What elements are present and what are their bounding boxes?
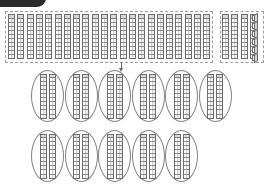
tens-rod <box>185 14 192 59</box>
tens-rod <box>216 74 223 119</box>
tens-rod <box>148 14 155 59</box>
tens-rod <box>174 134 181 179</box>
grouping-ring <box>65 70 98 122</box>
rod-unit-segment <box>176 55 181 58</box>
grouping-ring <box>199 70 232 122</box>
top-banner <box>0 0 46 7</box>
rod-unit-segment <box>130 55 135 58</box>
rod-unit-segment <box>139 55 144 58</box>
tens-rod <box>82 134 89 179</box>
tens-rod <box>207 74 214 119</box>
tens-rod <box>64 14 71 59</box>
rod-unit-segment <box>149 55 154 58</box>
tens-rod <box>73 14 80 59</box>
tens-rod <box>175 14 182 59</box>
rod-unit-segment <box>232 55 237 58</box>
rod-unit-segment <box>46 55 51 58</box>
tens-rod <box>36 14 43 59</box>
tens-rod <box>183 74 190 119</box>
tens-rod <box>82 14 89 59</box>
tens-rod <box>174 74 181 119</box>
tens-rod <box>157 14 164 59</box>
rod-unit-segment <box>65 55 70 58</box>
rod-unit-segment <box>186 55 191 58</box>
rod-unit-segment <box>175 175 180 178</box>
rod-unit-segment <box>242 55 247 58</box>
tens-rod <box>45 14 52 59</box>
rod-unit-segment <box>50 115 55 118</box>
rod-unit-segment <box>208 115 213 118</box>
rod-unit-segment <box>83 115 88 118</box>
rod-unit-segment <box>108 115 113 118</box>
rod-unit-segment <box>83 175 88 178</box>
grouping-ring <box>98 70 131 122</box>
tens-rod <box>40 74 47 119</box>
tens-rod <box>149 74 156 119</box>
tens-rod <box>194 14 201 59</box>
tens-rod <box>241 14 248 59</box>
tens-rod <box>8 14 15 59</box>
tens-rod <box>49 74 56 119</box>
grouping-ring <box>165 130 198 182</box>
rod-unit-segment <box>217 115 222 118</box>
rod-unit-segment <box>18 55 23 58</box>
rod-unit-segment <box>167 55 172 58</box>
rod-unit-segment <box>141 175 146 178</box>
rod-unit-segment <box>223 55 228 58</box>
grouping-ring <box>165 70 198 122</box>
grouping-ring <box>31 130 64 182</box>
rod-unit-segment <box>37 55 42 58</box>
tens-rod <box>55 14 62 59</box>
rod-unit-segment <box>93 55 98 58</box>
grouping-ring <box>132 70 165 122</box>
rod-unit-segment <box>158 55 163 58</box>
tens-rod <box>110 14 117 59</box>
rod-unit-segment <box>56 55 61 58</box>
tens-rod <box>203 14 210 59</box>
grouping-ring <box>98 130 131 182</box>
rod-unit-segment <box>117 175 122 178</box>
tens-rod <box>149 134 156 179</box>
tens-rod <box>140 74 147 119</box>
rod-unit-segment <box>74 175 79 178</box>
grouping-ring <box>31 70 64 122</box>
rod-unit-segment <box>102 55 107 58</box>
tens-rod <box>231 14 238 59</box>
worksheet-canvas <box>0 0 265 185</box>
tens-rod <box>222 14 229 59</box>
tens-rod <box>138 14 145 59</box>
tens-rod <box>107 74 114 119</box>
rod-unit-segment <box>121 55 126 58</box>
rod-unit-segment <box>28 55 33 58</box>
rod-unit-segment <box>150 175 155 178</box>
grouping-ring <box>65 130 98 182</box>
tens-rod <box>101 14 108 59</box>
tens-rod <box>17 14 24 59</box>
tens-rod <box>40 134 47 179</box>
tens-rod <box>73 74 80 119</box>
rod-unit-segment <box>108 175 113 178</box>
rod-unit-segment <box>41 175 46 178</box>
tens-rod <box>129 14 136 59</box>
rod-unit-segment <box>117 115 122 118</box>
rod-unit-segment <box>141 115 146 118</box>
rod-unit-segment <box>41 115 46 118</box>
tens-rod <box>140 134 147 179</box>
tens-rod <box>116 74 123 119</box>
rod-unit-segment <box>111 55 116 58</box>
tens-rod <box>82 74 89 119</box>
rod-unit-segment <box>74 115 79 118</box>
tens-rod <box>49 134 56 179</box>
rod-unit-segment <box>175 115 180 118</box>
rod-unit-segment <box>83 55 88 58</box>
tens-rod <box>183 134 190 179</box>
tens-rod <box>27 14 34 59</box>
rod-unit-segment <box>195 55 200 58</box>
grouping-ring <box>132 130 165 182</box>
rod-unit-segment <box>50 175 55 178</box>
rod-unit-segment <box>204 55 209 58</box>
unit-cube <box>252 55 258 61</box>
tens-rod <box>107 134 114 179</box>
tens-rod <box>166 14 173 59</box>
rod-unit-segment <box>184 175 189 178</box>
